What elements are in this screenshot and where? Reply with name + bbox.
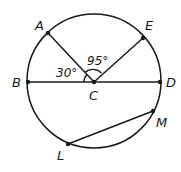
point-C: [92, 80, 96, 84]
point-D: [158, 80, 162, 84]
label-M: M: [156, 115, 167, 130]
point-E: [141, 36, 145, 40]
circle-diagram: A E B D C M L 30° 95°: [0, 0, 181, 172]
label-B: B: [12, 75, 21, 90]
point-L: [66, 142, 70, 146]
point-A: [46, 31, 50, 35]
label-C: C: [89, 88, 99, 103]
label-A: A: [34, 18, 44, 33]
point-B: [26, 80, 30, 84]
angle-arc-ACE: [85, 69, 102, 73]
chord-LM: [68, 111, 153, 144]
angle-arc-BCA: [84, 75, 87, 83]
point-M: [151, 109, 155, 113]
label-D: D: [166, 75, 176, 90]
angle-label-95: 95°: [87, 54, 108, 68]
label-E: E: [145, 18, 154, 33]
angle-label-30: 30°: [56, 66, 77, 80]
label-L: L: [57, 148, 64, 163]
